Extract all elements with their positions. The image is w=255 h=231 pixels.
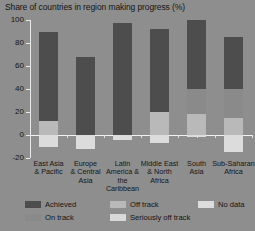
bar-group <box>150 20 169 158</box>
bar-segment <box>187 114 206 135</box>
bar-group <box>39 20 58 158</box>
legend-label: Achieved <box>45 200 76 209</box>
plot-area <box>30 20 252 158</box>
legend-label: Off track <box>130 200 159 209</box>
chart-legend: AchievedOn trackOff trackSeriously off t… <box>0 200 255 228</box>
bar-segment <box>39 121 58 135</box>
bar-segment <box>39 32 58 122</box>
y-tick-label: 100 <box>0 16 24 24</box>
legend-swatch <box>110 214 126 221</box>
chart-screenshot: Share of countries in region making prog… <box>0 0 255 231</box>
legend-swatch <box>110 201 126 208</box>
bar-segment-no-data <box>150 135 169 143</box>
x-axis-label-line: Africa <box>137 177 182 185</box>
bar-segment <box>150 29 169 112</box>
legend-label: No data <box>218 200 245 209</box>
y-tick-label: -20 <box>0 154 24 162</box>
bar-group <box>187 20 206 158</box>
bar-group <box>76 20 95 158</box>
y-tick-mark <box>26 158 30 159</box>
x-axis-label: Sub-SaharanAfrica <box>211 160 255 177</box>
bar-segment <box>113 23 132 135</box>
bar-segment-no-data <box>224 135 243 152</box>
y-tick-label: 20 <box>0 108 24 116</box>
legend-swatch <box>25 201 41 208</box>
bar-segment-no-data <box>76 135 95 149</box>
legend-label: On track <box>45 213 74 222</box>
y-tick-label: 60 <box>0 62 24 70</box>
y-tick-label: 0 <box>0 131 24 139</box>
x-tick-mark <box>252 135 253 138</box>
bar-segment <box>224 118 243 135</box>
bar-segment <box>224 89 243 118</box>
bar-group <box>113 20 132 158</box>
bar-segment-no-data <box>39 135 58 147</box>
x-axis-label-line: Africa <box>211 168 255 176</box>
y-tick-label: 40 <box>0 85 24 93</box>
bar-segment <box>187 20 206 89</box>
bar-segment-no-data <box>187 135 206 137</box>
bar-segment <box>224 37 243 89</box>
legend-swatch <box>198 201 214 208</box>
bar-segment <box>187 89 206 114</box>
legend-label: Seriously off track <box>130 213 190 222</box>
bar-group <box>224 20 243 158</box>
legend-swatch <box>25 214 41 221</box>
y-tick-label: 80 <box>0 39 24 47</box>
bar-segment-no-data <box>113 135 132 140</box>
chart-title: Share of countries in region making prog… <box>5 2 185 12</box>
bar-segment <box>150 112 169 135</box>
bar-segment <box>76 57 95 135</box>
